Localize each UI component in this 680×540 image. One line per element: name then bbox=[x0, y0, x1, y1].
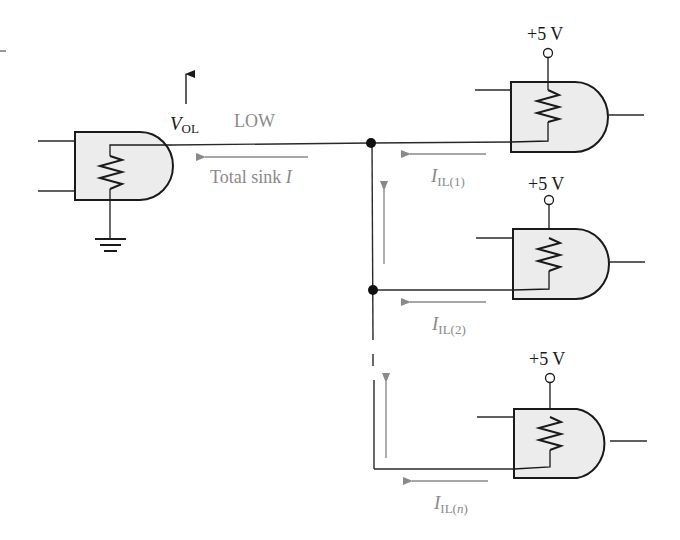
driver-and-gate-body bbox=[75, 132, 173, 200]
iiln-label: IIL(n) bbox=[433, 492, 468, 516]
junction-dot-2 bbox=[368, 285, 378, 295]
load-gate-n: +5 V bbox=[477, 349, 647, 478]
fan-out-sink-current-diagram: VOL LOW Total sink I +5 V IIL(1) +5 V bbox=[0, 0, 680, 540]
load-n-supply-label: +5 V bbox=[529, 349, 565, 369]
iil2-label: IIL(2) bbox=[431, 313, 466, 337]
low-state-label: LOW bbox=[234, 111, 275, 131]
bus-wiring bbox=[172, 142, 514, 469]
load-gate-2: +5 V bbox=[476, 174, 645, 299]
load-gate-1: +5 V bbox=[475, 24, 644, 152]
junction-dot-1 bbox=[366, 138, 376, 148]
load-n-vcc-terminal-icon bbox=[546, 374, 555, 383]
vol-label: VOL bbox=[170, 113, 199, 136]
total-sink-label: Total sink I bbox=[210, 167, 293, 187]
load-1-vcc-terminal-icon bbox=[544, 49, 553, 58]
load-2-supply-label: +5 V bbox=[528, 174, 564, 194]
load-2-and-gate-body bbox=[513, 229, 609, 299]
ground-icon bbox=[95, 239, 126, 251]
driver-gate bbox=[38, 132, 173, 251]
iil1-label: IIL(1) bbox=[430, 165, 465, 189]
load-2-vcc-terminal-icon bbox=[545, 196, 554, 205]
load-1-supply-label: +5 V bbox=[527, 24, 563, 44]
